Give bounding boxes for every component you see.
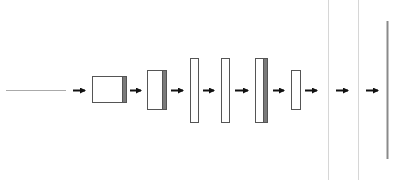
block-1 (93, 77, 127, 103)
block-6 (292, 71, 301, 110)
network-flow-diagram (0, 0, 394, 186)
block-1-strip (123, 77, 127, 103)
block-6-body (292, 71, 301, 110)
block-1-body (93, 77, 127, 103)
layer-blocks (93, 59, 301, 123)
block-2 (148, 71, 167, 110)
block-4-body (222, 59, 230, 123)
block-3-body (191, 59, 199, 123)
block-5-strip (264, 59, 268, 123)
block-5 (256, 59, 268, 123)
block-2-strip (163, 71, 167, 110)
block-3 (191, 59, 199, 123)
block-4 (222, 59, 230, 123)
